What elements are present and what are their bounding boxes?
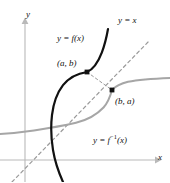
reflection-connector-line — [87, 72, 112, 90]
inverse-label-exponent: −1 — [110, 133, 117, 140]
inverse-label-prefix: y = f — [93, 135, 110, 145]
identity-line-label: y = x — [118, 16, 137, 25]
inverse-curve-label: y = f−1(x) — [93, 134, 127, 145]
point-marker-ba — [110, 88, 115, 93]
inverse-label-suffix: (x) — [117, 135, 127, 145]
x-axis-label: x — [158, 153, 162, 162]
point-marker-ab — [85, 70, 90, 75]
function-curve-label: y = f(x) — [57, 34, 84, 43]
point-label-ab: (a, b) — [57, 59, 77, 68]
figure-container: y x y = x y = f(x) (a, b) (b, a) y = f−1… — [0, 0, 170, 182]
identity-line-y-equals-x — [12, 40, 150, 182]
y-axis-label: y — [26, 10, 30, 19]
point-label-ba: (b, a) — [115, 97, 135, 106]
x-axis — [0, 157, 162, 164]
graph-canvas — [0, 0, 170, 182]
function-curve — [51, 29, 108, 182]
y-axis — [22, 18, 29, 183]
